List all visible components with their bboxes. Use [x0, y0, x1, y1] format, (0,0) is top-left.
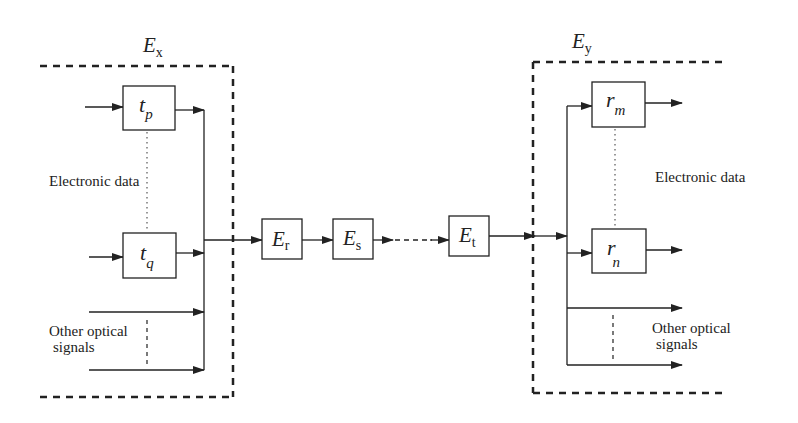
diagram-canvas: Ex tp Electronic data tq Other optical s…	[0, 0, 798, 423]
left-optical-label-line1: Other optical	[49, 323, 128, 339]
left-group-label: Ex	[142, 33, 163, 60]
left-optical-label-line2: signals	[53, 339, 95, 355]
right-electronic-data-label: Electronic data	[655, 169, 746, 185]
right-group-ey: Ey rm Electronic data rn Other optical s…	[533, 29, 746, 393]
right-group-label: Ey	[571, 29, 592, 56]
right-optical-label-line1: Other optical	[652, 320, 731, 336]
right-optical-label-line2: signals	[656, 336, 698, 352]
transmission-chain: Er Es Et	[204, 216, 567, 259]
left-group-ex: Ex tp Electronic data tq Other optical s…	[40, 33, 233, 397]
left-electronic-data-label: Electronic data	[49, 173, 140, 189]
